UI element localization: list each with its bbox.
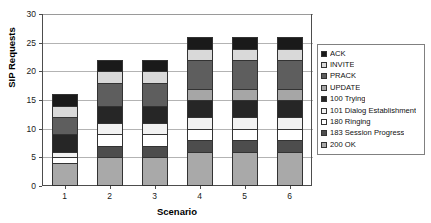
x-tick-mark (245, 186, 246, 189)
legend-swatch-icon (321, 119, 327, 125)
legend-item: ACK (321, 48, 422, 59)
bar-segment (142, 60, 168, 71)
legend-item: INVITE (321, 59, 422, 70)
bar-segment (232, 100, 258, 117)
x-tick-mark (155, 186, 156, 189)
x-tick-mark (200, 186, 201, 189)
bar-scenario-2 (97, 60, 123, 186)
legend-swatch-icon (321, 130, 327, 136)
bar-segment (97, 146, 123, 157)
y-tick-mark (39, 186, 42, 187)
legend-label: 200 OK (330, 141, 356, 149)
bar-segment (277, 49, 303, 60)
y-tick-label: 20 (14, 67, 36, 75)
bar-segment (97, 83, 123, 106)
legend-item: 100 Trying (321, 94, 422, 105)
legend-swatch-icon (321, 96, 327, 102)
legend-swatch-icon (321, 51, 327, 57)
y-tick-label: 15 (14, 96, 36, 104)
bar-segment (232, 129, 258, 140)
bar-segment (187, 140, 213, 151)
bar-segment (97, 157, 123, 186)
legend-item: PRACK (321, 71, 422, 82)
x-tick-label: 1 (50, 192, 80, 201)
x-tick-label: 2 (95, 192, 125, 201)
bar-segment (142, 71, 168, 82)
legend-label: INVITE (330, 61, 354, 69)
bar-segment (277, 140, 303, 151)
bar-segment (187, 49, 213, 60)
legend-swatch-icon (321, 108, 327, 114)
bar-segment (277, 152, 303, 186)
x-tick-mark (290, 186, 291, 189)
bar-segment (52, 134, 78, 151)
bar-scenario-4 (187, 37, 213, 186)
bar-scenario-6 (277, 37, 303, 186)
legend-swatch-icon (321, 142, 327, 148)
legend-swatch-icon (321, 62, 327, 68)
bar-segment (52, 117, 78, 134)
bar-segment (277, 117, 303, 128)
legend-label: UPDATE (330, 84, 360, 92)
bar-scenario-3 (142, 60, 168, 186)
bar-segment (277, 100, 303, 117)
bar-segment (277, 89, 303, 100)
y-tick-label: 5 (14, 153, 36, 161)
sip-requests-stacked-bar-chart: SIP Requests 051015202530 123456 Scenari… (0, 0, 431, 223)
chart-legend: ACKINVITEPRACKUPDATE100 Trying101 Dialog… (317, 44, 425, 155)
bar-segment (277, 129, 303, 140)
bar-segment (52, 94, 78, 105)
bar-segment (97, 71, 123, 82)
bar-segment (187, 129, 213, 140)
bar-scenario-1 (52, 94, 78, 186)
bar-segment (277, 37, 303, 48)
y-tick-label: 25 (14, 39, 36, 47)
bar-segment (142, 134, 168, 145)
bars-layer (42, 14, 312, 186)
bar-segment (232, 89, 258, 100)
bar-segment (232, 60, 258, 89)
legend-item: 200 OK (321, 139, 422, 150)
bar-segment (97, 134, 123, 145)
bar-segment (187, 100, 213, 117)
x-tick-label: 6 (275, 192, 305, 201)
legend-label: 180 Ringing (330, 118, 371, 126)
bar-segment (232, 49, 258, 60)
bar-segment (187, 37, 213, 48)
x-tick-label: 5 (230, 192, 260, 201)
bar-segment (97, 123, 123, 134)
legend-swatch-icon (321, 85, 327, 91)
bar-segment (52, 106, 78, 117)
x-axis-title: Scenario (42, 206, 312, 217)
bar-scenario-5 (232, 37, 258, 186)
x-tick-mark (65, 186, 66, 189)
y-tick-label: 10 (14, 125, 36, 133)
bar-segment (277, 60, 303, 89)
bar-segment (187, 89, 213, 100)
bar-segment (232, 140, 258, 151)
x-tick-label: 3 (140, 192, 170, 201)
bar-segment (232, 37, 258, 48)
bar-segment (142, 83, 168, 106)
legend-label: 100 Trying (330, 95, 365, 103)
legend-swatch-icon (321, 73, 327, 79)
y-tick-label: 0 (14, 182, 36, 190)
legend-label: PRACK (330, 72, 356, 80)
bar-segment (52, 163, 78, 186)
bar-segment (97, 106, 123, 123)
bar-segment (187, 117, 213, 128)
legend-item: UPDATE (321, 82, 422, 93)
bar-segment (232, 117, 258, 128)
bar-segment (142, 106, 168, 123)
bar-segment (232, 152, 258, 186)
bar-segment (142, 123, 168, 134)
legend-item: 183 Session Progress (321, 128, 422, 139)
legend-label: 183 Session Progress (330, 129, 404, 137)
y-tick-label: 30 (14, 10, 36, 18)
bar-segment (97, 60, 123, 71)
x-tick-mark (110, 186, 111, 189)
bar-segment (142, 157, 168, 186)
legend-label: ACK (330, 50, 346, 58)
bar-segment (187, 152, 213, 186)
x-tick-label: 4 (185, 192, 215, 201)
